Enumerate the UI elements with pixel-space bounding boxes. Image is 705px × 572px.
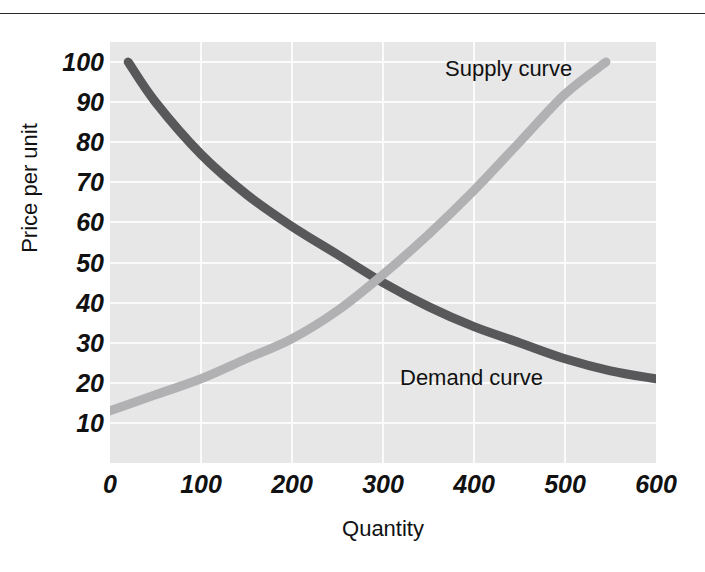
supply-curve-path bbox=[110, 62, 606, 411]
y-axis-tick-label: 50 bbox=[44, 250, 104, 275]
x-axis-tick-label: 600 bbox=[616, 472, 696, 497]
y-axis-tick-labels: 100908070605040302010 bbox=[38, 42, 104, 463]
x-axis-tick-labels: 0100200300400500600 bbox=[110, 472, 656, 506]
y-axis-tick-label: 60 bbox=[44, 210, 104, 235]
x-axis-tick-label: 0 bbox=[70, 472, 150, 497]
x-axis-tick-label: 300 bbox=[343, 472, 423, 497]
supply-demand-chart-figure: Supply curve Demand curve 10090807060504… bbox=[0, 0, 705, 572]
supply-curve-label: Supply curve bbox=[445, 58, 572, 80]
curve-layer bbox=[110, 42, 656, 463]
x-axis-title: Quantity bbox=[110, 516, 656, 542]
top-divider-rule bbox=[0, 13, 705, 14]
x-axis-tick-label: 100 bbox=[161, 472, 241, 497]
demand-curve-label: Demand curve bbox=[400, 367, 543, 389]
x-axis-tick-label: 500 bbox=[525, 472, 605, 497]
plot-area: Supply curve Demand curve bbox=[110, 42, 656, 463]
y-axis-tick-label: 100 bbox=[44, 50, 104, 75]
x-axis-tick-label: 400 bbox=[434, 472, 514, 497]
y-axis-tick-label: 70 bbox=[44, 170, 104, 195]
y-axis-tick-label: 40 bbox=[44, 290, 104, 315]
y-axis-tick-label: 80 bbox=[44, 130, 104, 155]
y-axis-tick-label: 30 bbox=[44, 330, 104, 355]
x-axis-tick-label: 200 bbox=[252, 472, 332, 497]
y-axis-tick-label: 10 bbox=[44, 410, 104, 435]
y-axis-title: Price per unit bbox=[17, 108, 43, 268]
y-axis-tick-label: 90 bbox=[44, 90, 104, 115]
demand-curve-path bbox=[128, 62, 656, 379]
y-axis-tick-label: 20 bbox=[44, 370, 104, 395]
